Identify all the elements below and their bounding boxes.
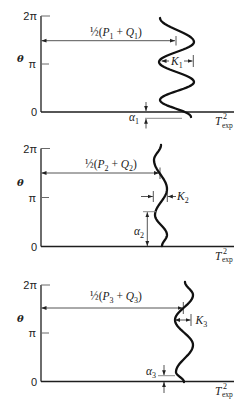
amplitude-label: K3 bbox=[195, 314, 208, 329]
mean-label: ½(P2 + Q2) bbox=[85, 158, 137, 173]
phase-label: α2 bbox=[134, 225, 144, 240]
curve-3 bbox=[175, 282, 193, 382]
mean-label: ½(P1 + Q1) bbox=[90, 26, 142, 41]
theta-axis-label: θ bbox=[17, 177, 24, 188]
theta-axis-label: θ bbox=[17, 313, 24, 324]
tick-label-pi: π bbox=[28, 192, 36, 204]
panel-2: 2π π 0 θ ½(P2 + Q2) K2 α2 T 2 exp bbox=[17, 143, 234, 265]
tick-label-0: 0 bbox=[31, 106, 37, 118]
mean-label: ½(P3 + Q3) bbox=[90, 290, 142, 305]
tick-label-2pi: 2π bbox=[23, 279, 37, 291]
tick-label-2pi: 2π bbox=[23, 10, 37, 22]
phase-label: α3 bbox=[146, 365, 156, 380]
amplitude-label: K2 bbox=[176, 190, 189, 205]
figure: 2π π 0 θ ½(P1 + Q1) K1 α1 T 2 exp bbox=[0, 0, 248, 411]
panel-3: 2π π 0 θ ½(P3 + Q3) K3 α3 T 2 exp bbox=[17, 279, 234, 399]
theta-axis-label: θ bbox=[17, 53, 24, 64]
curve-1 bbox=[159, 18, 194, 117]
curve-2 bbox=[154, 145, 167, 246]
phase-label: α1 bbox=[129, 111, 139, 126]
amplitude-label: K1 bbox=[170, 55, 183, 70]
tick-label-0: 0 bbox=[31, 241, 37, 253]
tick-label-pi: π bbox=[28, 327, 36, 339]
panel-1: 2π π 0 θ ½(P1 + Q1) K1 α1 T 2 exp bbox=[17, 10, 234, 130]
tick-label-pi: π bbox=[28, 58, 36, 70]
tick-label-2pi: 2π bbox=[23, 143, 37, 155]
tick-label-0: 0 bbox=[31, 376, 37, 388]
